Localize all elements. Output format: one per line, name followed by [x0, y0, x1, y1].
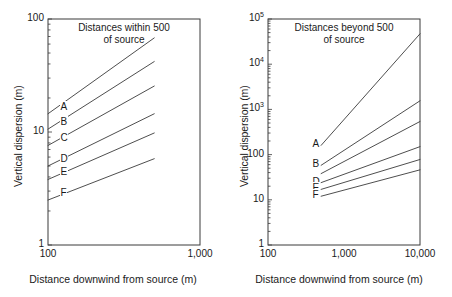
y-tick-label: 103	[230, 102, 264, 113]
x-tick-label: 100	[238, 248, 298, 259]
y-tick-exponent: 3	[260, 101, 264, 108]
curve-label-b: B	[60, 116, 68, 127]
y-axis-label-left: Vertical dispersion (m)	[12, 85, 24, 187]
curve-label-b: B	[312, 158, 320, 169]
y-tick-label: 105	[230, 12, 264, 23]
y-tick-label: 100	[230, 148, 264, 159]
y-tick-label: 10	[10, 125, 44, 136]
y-tick-mantissa: 10	[249, 57, 260, 68]
panel-title-right: Distances beyond 500 of source	[274, 22, 414, 45]
panel-title-left: Distances within 500 of source	[54, 22, 194, 45]
plot-frame	[268, 19, 420, 245]
series-line-f	[321, 170, 420, 196]
x-axis-label-left: Distance downwind from source (m)	[0, 273, 226, 285]
y-tick-exponent: 4	[260, 56, 264, 63]
curve-label-a: A	[312, 138, 320, 149]
x-tick-label: 1,000	[170, 248, 230, 259]
curve-label-f: F	[60, 187, 67, 198]
curve-label-e: E	[60, 166, 68, 177]
y-tick-label: 100	[10, 12, 44, 23]
curve-label-c: C	[60, 132, 68, 143]
curve-label-a: A	[60, 101, 68, 112]
series-line-e	[321, 159, 420, 189]
plot-frame	[48, 19, 200, 245]
y-tick-mantissa: 10	[249, 102, 260, 113]
y-tick-label: 104	[230, 57, 264, 68]
y-tick-exponent: 5	[260, 11, 264, 18]
series-line-b	[321, 101, 420, 165]
x-tick-label: 100	[18, 248, 78, 259]
y-axis-label-right: Vertical dispersion (m)	[238, 85, 250, 187]
y-tick-mantissa: 10	[249, 12, 260, 23]
curve-label-d: D	[60, 153, 68, 164]
chart-panel-right: Distances beyond 500 of source Vertical …	[226, 0, 452, 297]
chart-panel-left: Distances within 500 of source Vertical …	[0, 0, 226, 297]
y-tick-label: 10	[230, 193, 264, 204]
series-line-d	[321, 147, 420, 183]
figure-two-panel-dispersion-chart: Distances within 500 of source Vertical …	[0, 0, 452, 297]
x-tick-label: 10,000	[390, 248, 450, 259]
x-axis-label-right: Distance downwind from source (m)	[226, 273, 452, 285]
series-line-a	[321, 34, 420, 146]
curve-label-f: F	[312, 189, 319, 200]
x-tick-label: 1,000	[314, 248, 374, 259]
